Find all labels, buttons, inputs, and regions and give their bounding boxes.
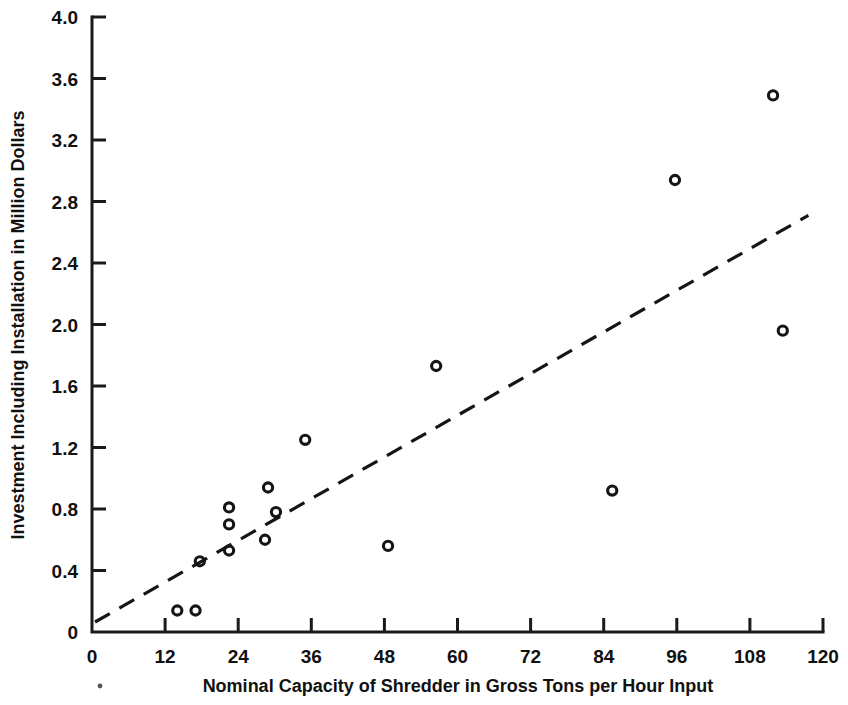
x-tick-label: 12 bbox=[155, 646, 176, 667]
data-point-marker bbox=[301, 435, 310, 444]
data-point-marker bbox=[224, 520, 233, 529]
data-point-marker bbox=[263, 483, 272, 492]
data-point-marker bbox=[224, 503, 233, 512]
x-tick-label: 36 bbox=[301, 646, 322, 667]
data-point-marker bbox=[224, 546, 233, 555]
x-tick-label: 24 bbox=[228, 646, 250, 667]
trendline-dashed bbox=[95, 215, 808, 622]
x-axis-ticks bbox=[165, 618, 750, 632]
y-axis-ticks bbox=[92, 79, 106, 571]
data-point-marker bbox=[778, 326, 787, 335]
x-tick-label: 108 bbox=[734, 646, 766, 667]
y-tick-label: 0 bbox=[67, 622, 78, 643]
y-tick-label: 1.6 bbox=[52, 376, 78, 397]
x-tick-label: 0 bbox=[87, 646, 98, 667]
x-tick-label: 84 bbox=[593, 646, 615, 667]
x-axis-title: Nominal Capacity of Shredder in Gross To… bbox=[203, 676, 714, 696]
axis-frame bbox=[92, 17, 823, 632]
y-tick-label: 3.6 bbox=[52, 69, 78, 90]
x-tick-label: 72 bbox=[520, 646, 541, 667]
data-point-marker bbox=[383, 541, 392, 550]
y-tick-label: 4.0 bbox=[52, 7, 78, 28]
x-tick-label: 120 bbox=[807, 646, 839, 667]
y-tick-label: 3.2 bbox=[52, 130, 78, 151]
data-point-marker bbox=[260, 535, 269, 544]
y-tick-label: 1.2 bbox=[52, 438, 78, 459]
y-axis-title: Investment Including Installation in Mil… bbox=[8, 110, 28, 539]
plot-canvas: 00.40.81.21.62.02.42.83.23.64.0 01224364… bbox=[0, 0, 848, 705]
x-tick-label: 48 bbox=[374, 646, 395, 667]
y-tick-label: 2.8 bbox=[52, 192, 78, 213]
y-tick-label: 0.8 bbox=[52, 499, 78, 520]
data-points bbox=[173, 91, 788, 615]
x-tick-label: 60 bbox=[447, 646, 468, 667]
x-tick-label: 96 bbox=[666, 646, 687, 667]
stray-speck-icon bbox=[98, 684, 103, 689]
y-tick-label: 2.0 bbox=[52, 315, 78, 336]
scatter-plot-figure: 00.40.81.21.62.02.42.83.23.64.0 01224364… bbox=[0, 0, 848, 705]
data-point-marker bbox=[191, 606, 200, 615]
data-point-marker bbox=[432, 361, 441, 370]
data-point-marker bbox=[768, 91, 777, 100]
data-point-marker bbox=[173, 606, 182, 615]
x-axis-tick-labels: 01224364860728496108120 bbox=[87, 646, 839, 667]
y-tick-label: 0.4 bbox=[52, 561, 79, 582]
data-point-marker bbox=[271, 507, 280, 516]
data-point-marker bbox=[670, 175, 679, 184]
regression-trendline bbox=[95, 215, 808, 622]
data-point-marker bbox=[608, 486, 617, 495]
y-axis-tick-labels: 00.40.81.21.62.02.42.83.23.64.0 bbox=[52, 7, 79, 643]
y-tick-label: 2.4 bbox=[52, 253, 79, 274]
